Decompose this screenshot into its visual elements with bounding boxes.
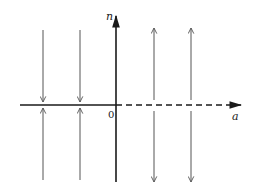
phase-diagram: n 0 a <box>0 0 255 192</box>
origin-label: 0 <box>108 109 114 120</box>
n-axis-label: n <box>106 10 113 23</box>
a-axis-label: a <box>232 110 239 123</box>
